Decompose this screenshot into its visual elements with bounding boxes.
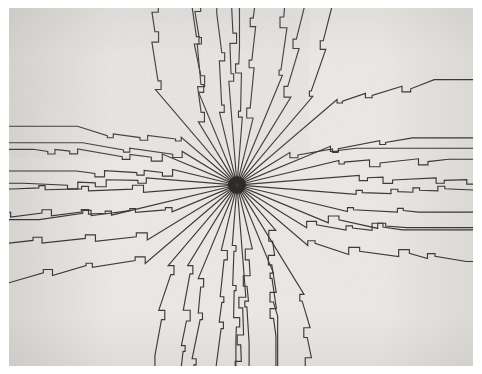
ray-path — [239, 185, 473, 194]
ray-path — [232, 187, 239, 366]
ray-path — [9, 178, 235, 189]
ray-path — [9, 126, 235, 183]
illusion-figure-root — [0, 0, 482, 374]
ray-path — [238, 8, 335, 183]
ray-path — [180, 187, 236, 366]
figure-plate — [9, 8, 473, 366]
ray-path — [9, 186, 235, 220]
convergence-hub — [228, 176, 246, 194]
ray-path — [238, 8, 287, 183]
ray-path — [239, 175, 473, 184]
radial-rays-svg — [9, 8, 473, 366]
ray-path — [9, 186, 235, 218]
ray-path — [155, 187, 236, 366]
ray-path — [9, 143, 235, 184]
ray-path — [238, 8, 257, 183]
ray-path — [9, 185, 235, 192]
